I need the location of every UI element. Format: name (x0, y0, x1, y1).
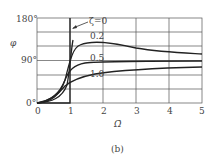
y-axis-label: φ (10, 38, 17, 48)
figure-caption: (b) (111, 144, 124, 154)
phase-chart: ζ=0 0.2 0.5 1.0 180° 90° 0° φ 0 1 2 3 4 … (0, 0, 208, 158)
x-tick-3: 3 (134, 106, 140, 116)
y-tick-180: 180° (16, 14, 38, 24)
label-zeta-0.2: 0.2 (90, 31, 104, 41)
x-tick-2: 2 (101, 106, 107, 116)
arrow-head-icon (72, 25, 77, 29)
x-tick-5: 5 (199, 106, 205, 116)
label-zeta-1.0: 1.0 (90, 69, 105, 79)
x-tick-4: 4 (167, 106, 173, 116)
x-tick-1: 1 (68, 106, 74, 116)
label-zeta-0: ζ=0 (89, 16, 107, 26)
y-tick-90: 90° (21, 55, 37, 65)
label-zeta-0.5: 0.5 (90, 53, 105, 63)
x-tick-0: 0 (35, 106, 41, 116)
curve-zeta-1.0 (37, 67, 202, 103)
x-axis-label: Ω̄ (113, 119, 122, 129)
